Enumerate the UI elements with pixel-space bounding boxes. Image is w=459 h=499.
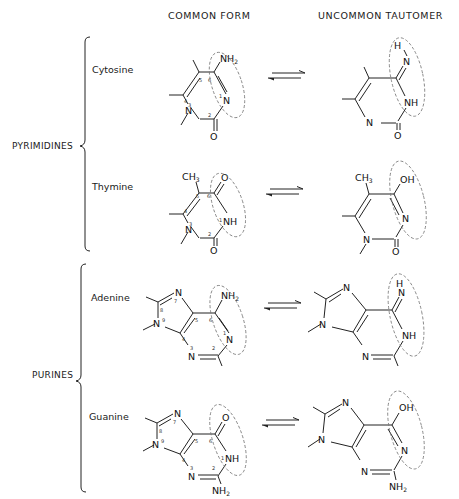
svg-text:4: 4 — [182, 457, 185, 463]
svg-text:N: N — [362, 351, 369, 362]
svg-text:N: N — [318, 434, 325, 445]
svg-text:7: 7 — [174, 298, 177, 304]
svg-text:9: 9 — [161, 438, 164, 444]
svg-text:5: 5 — [195, 438, 198, 444]
svg-text:H: H — [394, 40, 401, 51]
svg-text:NH: NH — [223, 216, 237, 227]
svg-text:CH3: CH3 — [182, 171, 200, 183]
svg-text:5: 5 — [199, 77, 202, 83]
svg-text:8: 8 — [160, 307, 163, 313]
equilibrium-arrow-thymine — [266, 187, 303, 197]
svg-text:4: 4 — [182, 336, 185, 342]
adenine-tautomer-structure: N N N N H NH — [308, 271, 430, 366]
guanine-common-structure: N N N O NH NH2 7 8 9 5 6 4 1 3 2 — [143, 400, 254, 497]
pyrimidines-brace — [80, 37, 90, 251]
tautomer-site-ellipse — [383, 157, 433, 242]
svg-text:1: 1 — [221, 455, 224, 461]
svg-text:5: 5 — [195, 317, 198, 323]
thymine-common-structure: CH3 O NH N O 5 6 4 1 3 2 — [169, 169, 252, 256]
svg-text:4: 4 — [184, 208, 187, 214]
svg-text:1: 1 — [223, 330, 226, 336]
svg-text:2: 2 — [208, 112, 211, 118]
svg-text:2: 2 — [212, 345, 215, 351]
svg-text:NH2: NH2 — [389, 481, 407, 493]
equilibrium-arrow-guanine — [262, 418, 299, 428]
equilibrium-arrow-cytosine — [268, 71, 305, 81]
svg-text:3: 3 — [190, 345, 193, 351]
svg-text:5: 5 — [196, 193, 199, 199]
svg-text:NH2: NH2 — [220, 53, 238, 65]
svg-text:N: N — [342, 397, 349, 408]
svg-text:N: N — [402, 213, 409, 224]
svg-text:3: 3 — [190, 465, 193, 471]
thymine-tautomer-structure: CH3 OH N N O — [342, 157, 433, 257]
svg-text:N: N — [153, 318, 160, 329]
svg-text:N: N — [174, 408, 181, 419]
svg-text:NH: NH — [404, 97, 418, 108]
svg-text:N: N — [152, 439, 159, 450]
svg-text:6: 6 — [207, 193, 210, 199]
svg-text:9: 9 — [162, 317, 165, 323]
svg-text:3: 3 — [189, 221, 192, 227]
svg-text:N: N — [361, 466, 368, 477]
svg-text:N: N — [188, 351, 195, 362]
svg-text:2: 2 — [212, 465, 215, 471]
structures-canvas: NH2 N N O 5 6 4 1 3 2 H N NH N O — [0, 0, 459, 499]
svg-text:N: N — [188, 471, 195, 482]
svg-text:N: N — [403, 56, 410, 67]
svg-text:OH: OH — [400, 174, 415, 185]
svg-text:CH3: CH3 — [355, 172, 373, 184]
cytosine-common-structure: NH2 N N O 5 6 4 1 3 2 — [169, 48, 252, 142]
svg-text:N: N — [401, 445, 408, 456]
svg-text:3: 3 — [188, 102, 191, 108]
tautomer-site-ellipse — [382, 271, 431, 360]
svg-text:7: 7 — [173, 419, 176, 425]
svg-text:H: H — [396, 278, 403, 289]
svg-text:O: O — [394, 130, 401, 141]
svg-text:NH: NH — [225, 453, 239, 464]
svg-text:N: N — [226, 334, 233, 345]
guanine-tautomer-structure: N N N OH N NH2 — [308, 387, 431, 493]
purines-brace — [76, 264, 86, 492]
adenine-common-structure: N N N N NH2 7 8 9 5 6 4 1 3 2 — [143, 281, 253, 366]
svg-text:N: N — [343, 282, 350, 293]
svg-text:NH2: NH2 — [212, 485, 230, 497]
svg-text:N: N — [223, 95, 230, 106]
svg-text:N: N — [319, 319, 326, 330]
svg-text:N: N — [175, 287, 182, 298]
svg-text:8: 8 — [159, 428, 162, 434]
cytosine-tautomer-structure: H N NH N O — [342, 35, 431, 141]
svg-text:2: 2 — [208, 231, 211, 237]
svg-text:OH: OH — [399, 402, 414, 413]
svg-text:1: 1 — [219, 93, 222, 99]
svg-text:O: O — [210, 131, 217, 142]
svg-text:O: O — [222, 412, 229, 423]
svg-text:1: 1 — [219, 217, 222, 223]
svg-text:N: N — [366, 117, 373, 128]
svg-text:4: 4 — [184, 98, 187, 104]
svg-text:O: O — [210, 245, 217, 256]
equilibrium-arrow-adenine — [264, 301, 301, 311]
svg-text:NH: NH — [402, 330, 416, 341]
svg-text:O: O — [392, 246, 399, 257]
svg-text:N: N — [363, 234, 370, 245]
